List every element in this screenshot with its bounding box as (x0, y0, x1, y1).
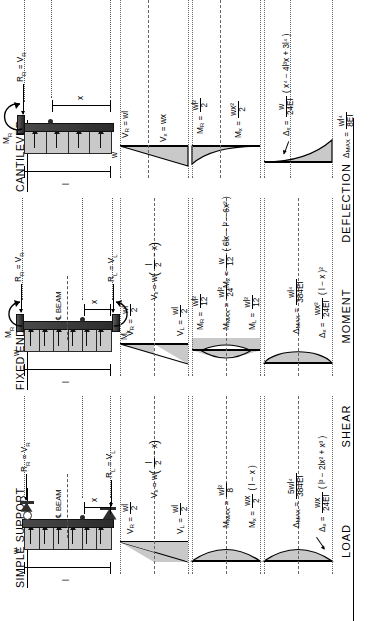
deflection-shape-cantilever (264, 136, 332, 170)
moment-diagram-simple-support: MMAX = wl²8 Mx = wx2 ( l − x ) (192, 396, 260, 594)
moment-end-right-fixed: MR = wl²12 (192, 293, 209, 330)
roller-support-simple (23, 511, 32, 520)
shear-general-cantilever: Vx = wx (160, 114, 168, 142)
column-simple-support: SIMPLE SUPPORT l w (0, 396, 371, 594)
deflection-diagram-fixed-ends: ΔMAX = wl⁴384EI Δx = wx²24EI ( l − x )² (264, 198, 332, 396)
load-symbol-cantilever: w (110, 152, 119, 158)
shear-right-value-cantilever: VR = wl (122, 111, 130, 138)
shear-left-value-simple: VL = wl2 (172, 502, 189, 534)
deflection-max-fixed: ΔMAX = wl⁴384EI (288, 278, 305, 334)
load-diagram-simple-support: l w ℄ BEAM (8, 396, 116, 594)
shear-general-simple: Vx = w( l2 − x) (146, 440, 163, 498)
moment-general-cantilever: Mx = wx²2 (230, 100, 247, 138)
moment-shape-cantilever (192, 138, 260, 170)
load-diagram-cantilever: l w MR RR = VR (8, 0, 116, 198)
shear-shape-cantilever (120, 142, 188, 168)
moment-end-cantilever: MR = wl²2 (192, 97, 209, 134)
right-reaction-label-cantilever: RR = VR (16, 52, 27, 82)
right-reaction-label-fixed: RR = VR (14, 252, 25, 282)
deflection-general-simple: Δx = wx24EI ( l³ − 2lx² + x³ ) (314, 436, 331, 532)
x-label-fixed: x (90, 300, 99, 304)
deflection-diagram-simple-support: ΔMAX = 5wl⁴384EI Δx = wx24EI ( l³ − 2lx²… (264, 396, 332, 594)
moment-max-simple: MMAX = wl²8 (218, 482, 235, 528)
deflection-max-simple: ΔMAX = 5wl⁴384EI (288, 472, 305, 528)
moment-general-fixed: Mx = w12 ( 6lx − l² − 6x² ) (218, 196, 235, 288)
deflection-general-fixed: Δx = wx²24EI ( l − x )² (314, 267, 331, 338)
moment-label-top-fixed: MR (4, 327, 15, 338)
row-label-deflection: DEFLECTION (340, 118, 354, 288)
moment-label-cantilever: MR (2, 133, 13, 144)
moment-general-simple: Mx = wx2 ( l − x ) (244, 465, 261, 528)
beam-cantilever (22, 123, 114, 132)
shear-diagram-simple-support: VR = wl2 VL = wl2 Vx = w( l2 − x) (120, 396, 188, 594)
shear-left-value-fixed: VL = wl2 (172, 304, 189, 336)
beam-centerline-label-fixed: ℄ BEAM (54, 291, 63, 320)
moment-diagram-fixed-ends: MR = wl²12 MMAX = wl²24 ML = wl²12 Mx = … (192, 198, 260, 396)
span-label-fixed: l (62, 381, 71, 383)
moment-max-fixed: MMAX = wl²24 (218, 284, 235, 330)
shear-right-value-simple: VR = wl2 (122, 501, 139, 534)
span-label-cantilever: l (62, 183, 71, 185)
row-label-strip: LOAD SHEAR MOMENT DEFLECTION (336, 0, 366, 594)
beam-fixed (20, 321, 116, 330)
deflection-diagram-cantilever: Δx = w24EI ( x⁴ − 4l³x + 3l⁴ ) ΔMAX = wl… (264, 0, 332, 198)
moment-diagram-cantilever: MR = wl²2 Mx = wx²2 (192, 0, 260, 198)
deflection-general-cantilever: Δx = w24EI ( x⁴ − 4l³x + 3l⁴ ) (278, 34, 295, 136)
shear-diagram-cantilever: VR = wl Vx = wx (120, 0, 188, 198)
shear-right-value-fixed: VR = wl2 (122, 303, 139, 336)
column-cantilever: CANTILEVER l w MR (0, 0, 371, 198)
column-fixed-ends: FIXED ENDS l w ℄ BEAM (0, 198, 371, 396)
end-moment-arrow-top (2, 296, 26, 330)
beam-centerline-label-simple: ℄ BEAM (54, 489, 63, 518)
load-symbol-simple: w (12, 548, 21, 554)
right-reaction-label-simple: RR = VR (20, 442, 31, 472)
load-symbol-fixed: w (12, 350, 21, 356)
load-diagram-fixed-ends: l w ℄ BEAM (8, 198, 116, 396)
moment-end-left-fixed: ML = wl²12 (244, 294, 261, 330)
shear-diagram-fixed-ends: VR = wl2 VL = wl2 Vx = w( l2 − x) (120, 198, 188, 396)
x-label-cantilever: x (76, 96, 85, 100)
x-label-simple: x (90, 498, 99, 502)
shear-general-fixed: Vx = w( l2 − x) (146, 242, 163, 300)
beam-simple (22, 519, 114, 528)
span-label-simple: l (62, 579, 71, 581)
